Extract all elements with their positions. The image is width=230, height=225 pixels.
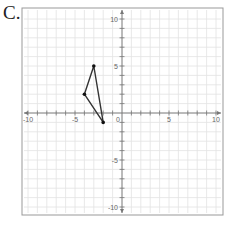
- x-tick-label: -10: [23, 116, 33, 123]
- x-tick-label: 0: [116, 116, 120, 123]
- y-tick-label: -5: [112, 157, 118, 164]
- x-tick-label: 10: [212, 116, 220, 123]
- x-tick-label: -5: [72, 116, 78, 123]
- y-tick-label: 5: [114, 63, 118, 70]
- vertex-point: [101, 121, 105, 125]
- vertex-point: [83, 92, 87, 96]
- coordinate-plane: -10-50510105-5-10: [0, 0, 230, 225]
- x-tick-label: 5: [167, 116, 171, 123]
- y-tick-label: 10: [110, 16, 118, 23]
- vertex-point: [92, 64, 96, 68]
- y-tick-label: -10: [108, 204, 118, 211]
